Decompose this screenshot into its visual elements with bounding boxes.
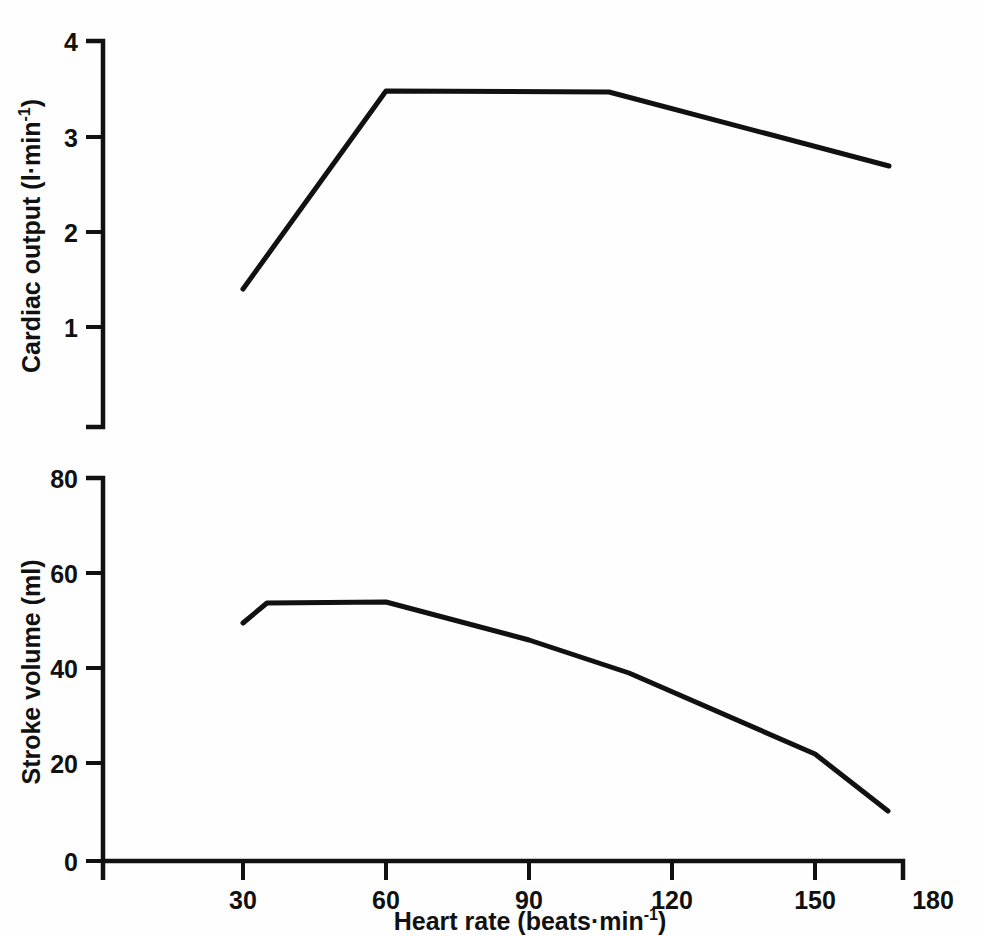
bottom-panel-xticklabel-30: 30 [229,886,257,914]
top-panel-y-axis-title-main: Cardiac output (l·min [17,122,45,373]
top-panel-yticklabel-3: 3 [64,124,78,152]
bottom-panel-y-axis-line [86,478,103,880]
bottom-panel-yticklabel-80: 80 [50,465,78,493]
top-panel-yticklabel-2: 2 [64,219,78,247]
top-panel-y-axis-title-close: ) [17,99,45,107]
svg-text:Cardiac output (l·min-1): Cardiac output (l·min-1) [16,99,45,373]
stroke-volume-panel: 80 60 40 20 0 30 60 90 120 150 180 Strok… [17,465,954,935]
bottom-panel-yticklabel-20: 20 [50,750,78,778]
cardiac-output-panel: 4 3 2 1 Cardiac output (l·min-1) [16,28,889,427]
cardiac-output-curve [243,91,889,289]
bottom-panel-yticklabel-0: 0 [64,848,78,876]
bottom-panel-y-ticks [86,573,103,861]
top-panel-y-axis-title-sup: -1 [16,107,33,121]
top-panel-yticklabel-1: 1 [64,314,78,342]
bottom-panel-xticklabel-180: 180 [912,886,954,914]
svg-text:Stroke volume (ml): Stroke volume (ml) [17,559,45,784]
bottom-panel-yticklabel-60: 60 [50,560,78,588]
bottom-panel-yticklabel-40: 40 [50,655,78,683]
top-panel-y-ticks [86,137,103,327]
bottom-panel-x-ticks [243,861,815,880]
stroke-volume-curve [243,602,888,811]
bottom-panel-x-axis-line [103,861,903,880]
x-axis-title-sup: -1 [644,906,658,923]
top-panel-y-axis-title: Cardiac output (l·min-1) [16,99,45,373]
chart-svg: 4 3 2 1 Cardiac output (l·min-1) [0,0,982,936]
figure-canvas: 4 3 2 1 Cardiac output (l·min-1) [0,0,982,936]
bottom-panel-y-axis-title: Stroke volume (ml) [17,559,45,784]
bottom-panel-xticklabel-150: 150 [794,886,836,914]
top-panel-yticklabel-4: 4 [64,28,78,56]
x-axis-title-close: ) [658,907,666,935]
x-axis-title-main: Heart rate (beats·min [394,907,644,935]
bottom-panel-x-axis-title: Heart rate (beats·min-1) [394,906,667,935]
